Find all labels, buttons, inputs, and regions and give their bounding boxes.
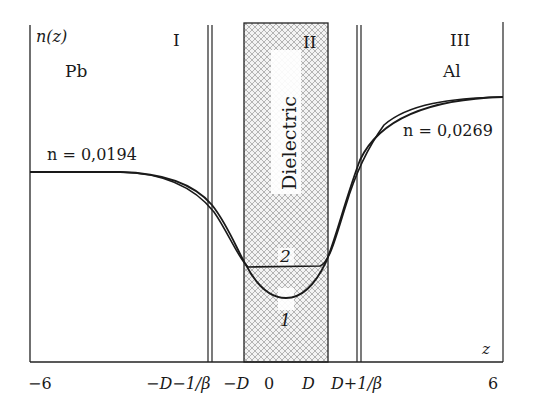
x-tick-d-plus-inv-beta: D+1/β (330, 374, 382, 393)
density-profile-figure: n(z) I II III Pb Al Dielectric n = 0,019… (0, 0, 557, 409)
x-tick-minus-d-minus-inv-beta: −D−1/β (146, 374, 210, 393)
x-tick-6: 6 (488, 374, 498, 393)
y-axis-label: n(z) (36, 27, 67, 46)
x-tick-minus-d: −D (223, 374, 249, 393)
curve-1-label: 1 (280, 310, 291, 330)
region-II-label: II (303, 32, 316, 52)
dielectric-label: Dielectric (278, 96, 300, 190)
x-tick-d: D (301, 374, 315, 393)
x-tick-zero: 0 (264, 374, 274, 393)
right-density-annotation: n = 0,0269 (403, 121, 493, 140)
x-axis-label: z (481, 340, 490, 358)
material-al-label: Al (442, 61, 461, 81)
region-I-label: I (173, 30, 180, 50)
material-pb-label: Pb (65, 61, 87, 81)
region-III-label: III (450, 30, 470, 50)
x-tick-minus6: −6 (28, 374, 52, 393)
curve-2-label: 2 (279, 246, 291, 266)
left-density-annotation: n = 0,0194 (47, 145, 137, 164)
